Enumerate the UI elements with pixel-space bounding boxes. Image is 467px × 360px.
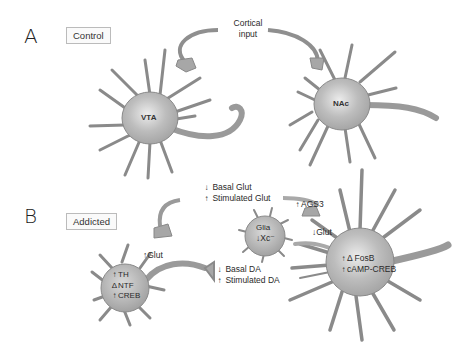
ntf-marker: ΔNTF xyxy=(111,281,140,292)
up-arrow-icon: ↑ xyxy=(111,270,118,281)
down-arrow-icon: ↓ xyxy=(203,182,210,193)
nac-marker-list: ↑Δ FosB ↑cAMP-CREB xyxy=(340,253,396,275)
basal-da-label: ↓ Basal DA xyxy=(216,264,280,275)
basal-glut-text: Basal Glut xyxy=(212,182,251,192)
camp-creb-marker: ↑cAMP-CREB xyxy=(340,264,396,275)
up-arrow-icon: ↑ xyxy=(294,199,301,210)
cortical-input-line2: input xyxy=(228,29,268,40)
glia-label: Glia xyxy=(256,222,270,233)
creb-text: CREB xyxy=(118,291,140,300)
cortical-terminal-addicted xyxy=(154,200,180,238)
da-output-list: ↓ Basal DA ↑ Stimulated DA xyxy=(216,264,280,286)
vta-marker-list: ↑TH ΔNTF ↑CREB xyxy=(111,270,140,302)
stimulated-da-label: ↑ Stimulated DA xyxy=(216,275,280,286)
down-arrow-icon: ↓ xyxy=(216,264,223,275)
fosb-text: Δ FosB xyxy=(347,253,374,263)
panel-letter-b: B xyxy=(24,204,37,228)
glut-to-nac-text: Glut xyxy=(316,227,332,237)
stimulated-glut-label: ↑ Stimulated Glut xyxy=(203,193,271,204)
up-arrow-icon: ↑ xyxy=(111,291,118,302)
up-arrow-icon: ↑ xyxy=(340,253,347,264)
nac-label: NAc xyxy=(333,99,349,108)
cortical-input-line1: Cortical xyxy=(228,18,268,29)
panel-label-control: Control xyxy=(66,27,111,44)
fosb-marker: ↑Δ FosB xyxy=(340,253,396,264)
basal-glut-label: ↓ Basal Glut xyxy=(203,182,271,193)
ags3-text: AGS3 xyxy=(301,199,324,209)
glut-to-vta-text: Glut xyxy=(147,250,163,260)
glut-to-nac-label: ↓Glut xyxy=(312,227,332,238)
ags3-label: ↑AGS3 xyxy=(294,199,324,210)
stimulated-glut-text: Stimulated Glut xyxy=(212,193,270,203)
cortical-input-left-axon xyxy=(176,30,218,72)
glut-input-list: ↓ Basal Glut ↑ Stimulated Glut xyxy=(203,182,271,204)
xc-text: Xc⁻ xyxy=(260,233,275,243)
basal-da-text: Basal DA xyxy=(225,264,260,274)
th-text: TH xyxy=(118,270,129,279)
delta-icon: Δ xyxy=(111,281,118,292)
up-arrow-icon: ↑ xyxy=(340,264,347,275)
vta-label: VTA xyxy=(141,113,156,122)
cortical-input-right-axon xyxy=(268,30,324,70)
up-arrow-icon: ↑ xyxy=(216,275,223,286)
cortical-input-label: Cortical input xyxy=(228,18,268,40)
stimulated-da-text: Stimulated DA xyxy=(225,275,279,285)
up-arrow-icon: ↑ xyxy=(203,193,210,204)
th-marker: ↑TH xyxy=(111,270,140,281)
panel-label-addicted: Addicted xyxy=(66,213,117,230)
glut-to-vta-label: ↑Glut xyxy=(143,250,163,261)
diagram-canvas xyxy=(0,0,467,360)
camp-creb-text: cAMP-CREB xyxy=(347,264,396,274)
ntf-text: NTF xyxy=(118,281,134,290)
panel-letter-a: A xyxy=(24,24,38,48)
creb-marker: ↑CREB xyxy=(111,291,140,302)
glia-xc-label: ↓Xc⁻ xyxy=(256,233,275,244)
